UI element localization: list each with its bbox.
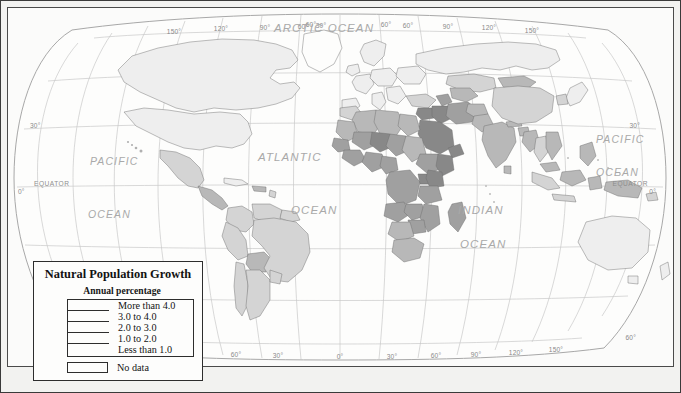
svg-text:ARCTIC OCEAN: ARCTIC OCEAN xyxy=(273,22,374,34)
legend-swatch-less-than-1 xyxy=(68,344,109,355)
svg-text:150°: 150° xyxy=(167,28,182,35)
svg-text:90°: 90° xyxy=(471,351,482,358)
svg-text:120°: 120° xyxy=(482,24,497,31)
ocean-label-arctic: ARCTIC OCEAN xyxy=(273,22,374,34)
legend-label: More than 4.0 xyxy=(118,300,175,311)
legend-swatch-2-to-3 xyxy=(68,322,109,333)
svg-text:150°: 150° xyxy=(525,27,540,34)
legend-row-no-data: No data xyxy=(67,362,194,373)
svg-text:90°: 90° xyxy=(260,24,271,31)
svg-text:OCEAN: OCEAN xyxy=(291,204,337,216)
svg-text:OCEAN: OCEAN xyxy=(596,166,639,178)
country-sri-lanka xyxy=(504,166,511,174)
svg-text:0°: 0° xyxy=(18,188,25,195)
legend-label: Less than 1.0 xyxy=(118,344,172,355)
svg-text:30°: 30° xyxy=(387,353,398,360)
svg-text:60°: 60° xyxy=(431,352,442,359)
legend-swatch-more-than-4 xyxy=(68,300,109,311)
svg-text:30°: 30° xyxy=(629,122,640,129)
legend-subtitle: Annual percentage xyxy=(50,285,194,296)
svg-text:PACIFIC: PACIFIC xyxy=(90,155,138,167)
country-sulawesi xyxy=(588,176,602,190)
svg-text:30°: 30° xyxy=(30,122,41,129)
svg-text:INDIAN: INDIAN xyxy=(458,204,504,216)
svg-text:30°: 30° xyxy=(273,352,284,359)
world-map-figure: 150° 120° 90° 60° 30° 60° 90° 120° 150° … xyxy=(0,0,681,393)
legend-label: 1.0 to 2.0 xyxy=(118,333,157,344)
svg-text:60°: 60° xyxy=(231,351,242,358)
svg-text:EQUATOR: EQUATOR xyxy=(613,180,649,188)
legend-row: More than 4.0 xyxy=(68,300,193,311)
svg-text:90°: 90° xyxy=(443,23,454,30)
legend-swatch-1-to-2 xyxy=(68,333,109,344)
country-tasmania xyxy=(628,276,638,284)
svg-text:0°: 0° xyxy=(337,353,344,360)
legend-label: No data xyxy=(117,362,149,373)
svg-text:120°: 120° xyxy=(509,349,524,356)
legend-swatch-no-data xyxy=(67,362,108,373)
country-new-zealand xyxy=(660,262,670,280)
legend-class-rows: More than 4.0 3.0 to 4.0 2.0 to 3.0 1.0 … xyxy=(67,299,194,373)
country-korea xyxy=(556,94,568,105)
legend-label: 3.0 to 4.0 xyxy=(118,311,157,322)
legend-row: Less than 1.0 xyxy=(68,344,193,355)
map-legend: Natural Population Growth Annual percent… xyxy=(33,261,203,381)
legend-title: Natural Population Growth xyxy=(42,268,194,282)
svg-text:60°: 60° xyxy=(625,334,636,341)
svg-text:0°: 0° xyxy=(649,188,656,195)
legend-label: 2.0 to 3.0 xyxy=(118,322,157,333)
svg-text:PACIFIC: PACIFIC xyxy=(596,133,644,145)
svg-text:120°: 120° xyxy=(214,25,229,32)
legend-row: 2.0 to 3.0 xyxy=(68,322,193,333)
country-hispaniola xyxy=(252,186,266,192)
svg-text:OCEAN: OCEAN xyxy=(88,208,131,220)
country-kenya xyxy=(426,170,444,188)
legend-row: 3.0 to 4.0 xyxy=(68,311,193,322)
legend-swatch-stack: More than 4.0 3.0 to 4.0 2.0 to 3.0 1.0 … xyxy=(67,299,194,357)
legend-swatch-3-to-4 xyxy=(68,311,109,322)
svg-text:60°: 60° xyxy=(381,21,392,28)
svg-text:OCEAN: OCEAN xyxy=(460,238,506,250)
svg-text:150°: 150° xyxy=(549,346,564,353)
legend-row: 1.0 to 2.0 xyxy=(68,333,193,344)
svg-text:60°: 60° xyxy=(403,22,414,29)
svg-text:EQUATOR: EQUATOR xyxy=(34,180,70,188)
svg-text:ATLANTIC: ATLANTIC xyxy=(257,151,322,163)
